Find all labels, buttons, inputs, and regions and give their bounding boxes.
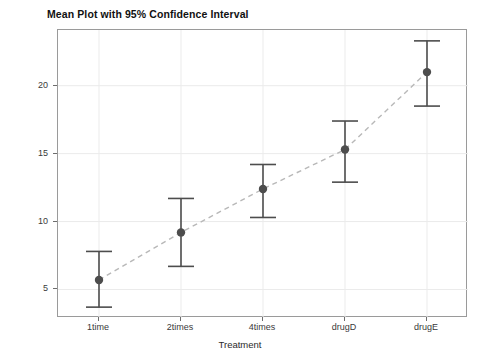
x-tick-label: 4times — [222, 322, 302, 332]
data-point-marker — [259, 185, 267, 193]
y-tick-label: 10 — [8, 216, 48, 226]
x-tick-label: 1time — [58, 322, 138, 332]
plot-area — [57, 29, 467, 317]
data-point-marker — [177, 228, 185, 236]
y-tick-label: 20 — [8, 80, 48, 90]
data-point-marker — [423, 68, 431, 76]
y-tick-label: 15 — [8, 148, 48, 158]
x-tick-label: drugE — [386, 322, 466, 332]
plot-svg — [58, 30, 468, 318]
y-tick-mark — [53, 288, 57, 289]
x-tick-mark — [344, 317, 345, 321]
data-point-marker — [95, 276, 103, 284]
y-tick-mark — [53, 153, 57, 154]
x-tick-label: drugD — [304, 322, 384, 332]
y-tick-label: 5 — [8, 283, 48, 293]
x-tick-mark — [98, 317, 99, 321]
x-tick-label: 2times — [140, 322, 220, 332]
x-tick-mark — [426, 317, 427, 321]
chart-title: Mean Plot with 95% Confidence Interval — [47, 8, 249, 20]
data-point-marker — [341, 145, 349, 153]
y-tick-mark — [53, 221, 57, 222]
x-axis-title: Treatment — [0, 339, 480, 350]
y-tick-mark — [53, 85, 57, 86]
chart-figure: Mean Plot with 95% Confidence Interval R… — [0, 0, 480, 364]
x-tick-mark — [180, 317, 181, 321]
x-tick-mark — [262, 317, 263, 321]
